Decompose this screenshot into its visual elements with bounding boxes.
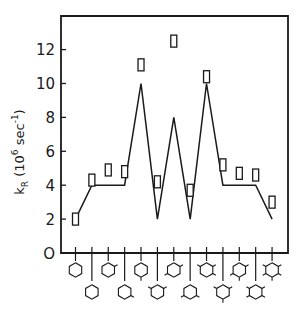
plot-frame [61,16,288,253]
benzene-ring-icon [135,263,148,281]
experimental-marker [236,167,242,179]
methyl-stub [246,287,249,289]
benzene-ring-icon [214,285,233,303]
methyl-stub [213,274,216,276]
y-tick-label: 6 [45,143,55,161]
methyl-stub [148,287,151,289]
plot-border [61,16,288,253]
experimental-marker [220,159,226,171]
methyl-stub [278,274,281,276]
benzene-ring-icon [181,285,200,299]
benzene-ring-icon [148,285,167,299]
calculated-line [76,84,273,220]
experimental-marker [204,71,210,83]
methyl-stub [164,287,167,289]
methyl-stub [246,296,249,298]
experimental-marker [122,166,128,178]
y-tick-label: 2 [45,211,55,229]
methyl-stub [214,287,217,289]
methyl-stub [262,296,265,298]
y-tick-label: 12 [36,41,55,59]
methyl-stub [213,265,216,267]
benzene-ring-icon [165,263,184,277]
benzene-ring-icon [230,263,249,281]
experimental-marker [138,59,144,71]
methyl-stub [229,287,232,289]
benzene-ring-icon [246,285,265,299]
benzene-ring-icon [86,285,99,299]
methyl-stub [196,296,199,298]
benzene-ring-icon [263,263,282,281]
experimental-marker-series [73,35,276,225]
experimental-marker [253,169,259,181]
methyl-stub [114,265,117,267]
methyl-stub [180,265,183,267]
benzene-ring-icon [197,263,216,277]
methyl-stub [131,296,134,298]
y-axis-label: kR (106 sec-1) [10,109,30,194]
benzene-ring-icon [69,263,81,277]
experimental-marker [73,213,79,225]
benzene-ring-icon [118,285,134,299]
y-tick-label: O [43,245,55,263]
y-axis-title: kR (106 sec-1) [10,109,30,194]
experimental-marker [269,196,275,208]
benzene-ring-icon [102,263,118,277]
calculated-line-series [76,84,273,220]
methyl-stub [263,265,266,267]
methyl-stub [165,274,168,276]
x-axis-structure-icons [69,263,281,303]
chart-canvas: O24681012 kR (106 sec-1) [0,0,305,314]
experimental-marker [89,174,95,186]
methyl-stub [262,287,265,289]
experimental-marker [171,35,177,47]
methyl-stub [197,265,200,267]
y-tick-label: 8 [45,109,55,127]
methyl-stub [246,265,249,267]
methyl-stub [278,265,281,267]
methyl-stub [230,274,233,276]
methyl-stub [263,274,266,276]
experimental-marker [105,164,111,176]
experimental-marker [187,184,193,196]
methyl-stub [181,296,184,298]
experimental-marker [154,176,160,188]
y-tick-label: 10 [36,75,55,93]
y-tick-label: 4 [45,177,55,195]
